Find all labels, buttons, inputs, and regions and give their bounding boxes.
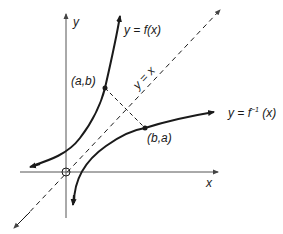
x-axis-label: x — [205, 176, 213, 190]
point-ab — [103, 86, 108, 91]
identity-line-tail-arrow — [14, 212, 30, 228]
identity-line — [24, 10, 220, 218]
identity-line-label: y = x — [129, 63, 158, 93]
curve-f-inverse-bottom-arrow — [73, 195, 74, 205]
point-ab-label: (a,b) — [71, 74, 96, 88]
curve-f-label: y = f(x) — [123, 23, 161, 37]
point-ba-label: (b,a) — [147, 131, 172, 145]
curve-f-inverse-label-prefix: y = f — [227, 106, 253, 120]
curve-f-inverse-label: y = f−1 (x) — [227, 106, 276, 120]
y-axis-label: y — [72, 15, 80, 29]
curve-f-inverse-label-superscript: −1 — [251, 106, 259, 113]
curve-f — [32, 16, 120, 166]
curve-f-inverse-label-suffix: (x) — [259, 106, 276, 120]
reflection-connector — [105, 88, 145, 128]
diagram-svg: y x y = f(x) (a,b) (b,a) y = x y = f−1 (… — [0, 0, 283, 234]
inverse-function-diagram: y x y = f(x) (a,b) (b,a) y = x y = f−1 (… — [0, 0, 283, 234]
curve-f-inverse — [74, 112, 214, 203]
point-ba — [143, 126, 148, 131]
